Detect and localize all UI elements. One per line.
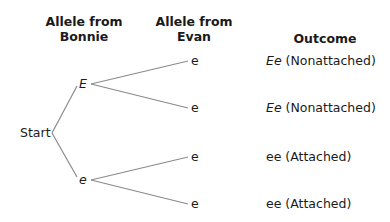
outcome-1-phenotype: (Nonattached) <box>282 53 376 68</box>
evan-allele-3: e <box>191 150 199 164</box>
start-node: Start <box>20 126 51 140</box>
evan-allele-4: e <box>191 197 199 211</box>
outcome-3-phenotype: (Attached) <box>281 149 351 164</box>
bonnie-allele-E: E <box>79 77 87 91</box>
evan-allele-1: e <box>191 54 199 68</box>
outcome-4: ee (Attached) <box>266 197 351 211</box>
outcome-2: Ee (Nonattached) <box>266 101 376 115</box>
outcome-2-phenotype: (Nonattached) <box>282 100 376 115</box>
outcome-1-genotype: Ee <box>266 53 282 68</box>
outcome-2-genotype: Ee <box>266 100 282 115</box>
bonnie-allele-e: e <box>79 173 87 187</box>
outcome-4-phenotype: (Attached) <box>281 196 351 211</box>
evan-allele-2: e <box>191 101 199 115</box>
outcome-1: Ee (Nonattached) <box>266 54 376 68</box>
outcome-3-genotype: ee <box>266 149 281 164</box>
outcome-4-genotype: ee <box>266 196 281 211</box>
outcome-3: ee (Attached) <box>266 150 351 164</box>
